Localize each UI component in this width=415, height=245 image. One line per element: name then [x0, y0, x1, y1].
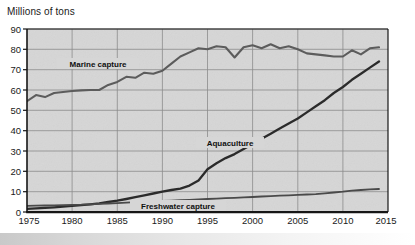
y-tick-90: 90 [10, 24, 21, 35]
series-label-text-marine-capture: Marine capture [70, 60, 127, 69]
y-tick-10: 10 [10, 186, 21, 197]
y-tick-50: 50 [10, 105, 21, 116]
series-label-marine-capture: Marine capture [57, 58, 139, 69]
x-tick-1985: 1985 [107, 215, 128, 226]
y-axis-tick-labels: 90 80 70 60 50 40 30 20 10 0 [10, 24, 21, 218]
x-tick-2015: 2015 [375, 215, 396, 226]
y-tick-30: 30 [10, 146, 21, 157]
series-label-freshwater-capture: Freshwater capture [130, 200, 226, 211]
y-tick-70: 70 [10, 64, 21, 75]
y-tick-40: 40 [10, 125, 21, 136]
x-tick-1995: 1995 [197, 215, 218, 226]
x-tick-1975: 1975 [18, 215, 39, 226]
line-chart-plot: Marine capture Aquaculture Freshwater ca… [0, 0, 415, 245]
series-label-text-freshwater-capture: Freshwater capture [141, 202, 215, 211]
y-tick-60: 60 [10, 85, 21, 96]
x-tick-2000: 2000 [242, 215, 263, 226]
x-tick-2010: 2010 [332, 215, 353, 226]
y-tick-20: 20 [10, 166, 21, 177]
x-tick-1980: 1980 [62, 215, 83, 226]
chart-figure: Millions of tons [0, 0, 415, 245]
x-tick-1990: 1990 [152, 215, 173, 226]
page-bottom-strip [0, 233, 415, 245]
x-tick-2005: 2005 [287, 215, 308, 226]
x-axis-tick-labels: 1975 1980 1985 1990 1995 2000 2005 2010 … [18, 215, 396, 226]
series-label-text-aquaculture: Aquaculture [207, 139, 254, 148]
series-label-aquaculture: Aquaculture [196, 137, 264, 148]
y-tick-80: 80 [10, 44, 21, 55]
